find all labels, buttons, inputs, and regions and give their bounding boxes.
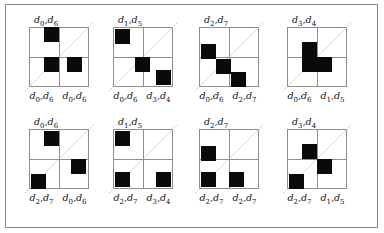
panel-8: d3,d4d2,d7d1,d5 — [278, 115, 356, 207]
figure-frame: d0,d6d0,d6d0,d6d1,d5d0,d6d3,d4d2,d7d0,d6… — [5, 4, 378, 228]
panel-5-block — [44, 131, 59, 146]
panel-2-grid — [113, 27, 173, 87]
panel-1-bottom-labels: d0,d6d0,d6 — [20, 89, 98, 103]
panel-3-bottom-label-right: d2,d7 — [228, 89, 261, 103]
panel-2-bottom-labels: d0,d6d3,d4 — [104, 89, 182, 103]
panel-8-bottom-label-left: d2,d7 — [283, 191, 316, 205]
panel-3-block — [201, 44, 216, 59]
panel-3-grid — [199, 27, 259, 87]
panel-5-top-label: d0,d6 — [20, 115, 98, 129]
panel-3-block — [216, 59, 231, 74]
panel-8-grid — [287, 129, 347, 189]
panel-4-bottom-labels: d0,d6d1,d5 — [278, 89, 356, 103]
panel-1-top-label: d0,d6 — [20, 13, 98, 27]
panel-8-top-label: d3,d4 — [278, 115, 356, 129]
panel-1-grid — [29, 27, 89, 87]
panel-6-bottom-labels: d2,d7d3,d4 — [104, 191, 182, 205]
panel-6-block — [115, 131, 130, 146]
panel-7-block — [201, 146, 216, 161]
panel-8-bottom-label-right: d1,d5 — [316, 191, 349, 205]
panel-8-block — [317, 159, 332, 174]
panel-7-bottom-label-right: d2,d7 — [228, 191, 261, 205]
panel-2-bottom-label-left: d0,d6 — [109, 89, 142, 103]
panel-7-bottom-label-left: d2,d7 — [195, 191, 228, 205]
panel-1-bottom-label-right: d0,d6 — [58, 89, 91, 103]
panel-6-grid — [113, 129, 173, 189]
panel-7-top-label: d2,d7 — [190, 115, 268, 129]
panel-7-bottom-labels: d2,d7d2,d7 — [190, 191, 268, 205]
panel-8-bottom-labels: d2,d7d1,d5 — [278, 191, 356, 205]
panel-6-gridline-horizontal — [113, 159, 173, 160]
panel-6: d1,d5d2,d7d3,d4 — [104, 115, 182, 207]
panel-1-block — [44, 57, 59, 72]
panel-5-bottom-label-right: d0,d6 — [58, 191, 91, 205]
panel-3-top-label: d2,d7 — [190, 13, 268, 27]
panel-6-bottom-label-right: d3,d4 — [142, 191, 175, 205]
panel-4: d3,d4d0,d6d1,d5 — [278, 13, 356, 105]
panel-4-top-label: d3,d4 — [278, 13, 356, 27]
panel-6-top-label: d1,d5 — [104, 115, 182, 129]
panel-7-block — [201, 172, 216, 187]
panel-6-block — [156, 172, 171, 187]
panel-2-bottom-label-right: d3,d4 — [142, 89, 175, 103]
panel-1-bottom-label-left: d0,d6 — [25, 89, 58, 103]
panel-5-block — [71, 159, 86, 174]
panel-7-block — [229, 172, 244, 187]
panel-5-block — [31, 174, 46, 189]
panel-4-grid — [287, 27, 347, 87]
panel-6-bottom-label-left: d2,d7 — [109, 191, 142, 205]
panel-3: d2,d7d0,d6d2,d7 — [190, 13, 268, 105]
panel-4-bottom-label-right: d1,d5 — [316, 89, 349, 103]
panel-5-bottom-labels: d2,d7d0,d6 — [20, 191, 98, 205]
panel-2-block — [156, 70, 171, 85]
panel-2-block — [135, 57, 150, 72]
panel-4-bottom-label-left: d0,d6 — [283, 89, 316, 103]
panel-2: d1,d5d0,d6d3,d4 — [104, 13, 182, 105]
panel-5-grid — [29, 129, 89, 189]
panel-8-block — [289, 174, 304, 189]
panel-2-block — [115, 29, 130, 44]
panel-7-grid — [199, 129, 259, 189]
panel-4-block — [302, 42, 317, 72]
panel-3-block — [231, 72, 246, 87]
panel-6-block — [115, 172, 130, 187]
panel-4-block — [317, 57, 332, 72]
panel-3-bottom-labels: d0,d6d2,d7 — [190, 89, 268, 103]
panel-3-bottom-label-left: d0,d6 — [195, 89, 228, 103]
panel-7: d2,d7d2,d7d2,d7 — [190, 115, 268, 207]
panel-1-block — [44, 27, 59, 42]
panel-5: d0,d6d2,d7d0,d6 — [20, 115, 98, 207]
panel-1-block — [67, 57, 82, 72]
panel-2-top-label: d1,d5 — [104, 13, 182, 27]
panel-1: d0,d6d0,d6d0,d6 — [20, 13, 98, 105]
panel-5-bottom-label-left: d2,d7 — [25, 191, 58, 205]
panel-8-block — [302, 144, 317, 159]
